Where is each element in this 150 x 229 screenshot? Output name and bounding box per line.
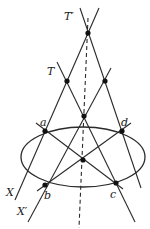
- label-T: T: [47, 65, 56, 78]
- label-b: b: [44, 189, 51, 202]
- point-T: [64, 78, 69, 83]
- label-X: X: [5, 186, 15, 199]
- label-c: c: [110, 188, 116, 201]
- label-T-prime: T′: [64, 10, 74, 23]
- point-center: [80, 157, 85, 162]
- point-c: [113, 180, 118, 185]
- point-R: [102, 78, 107, 83]
- line-T-c: [57, 62, 135, 222]
- label-X-prime: X′: [16, 205, 28, 218]
- conic-ellipse: [21, 127, 145, 187]
- point-T-prime: [85, 30, 90, 35]
- label-d: d: [121, 116, 128, 129]
- line-X-prime: [28, 68, 111, 222]
- point-a: [42, 128, 47, 133]
- point-M: [81, 113, 86, 118]
- point-b: [42, 182, 47, 187]
- label-a: a: [40, 116, 47, 129]
- line-X: [15, 8, 99, 200]
- diagonal-a-c: [36, 123, 123, 189]
- point-d: [119, 128, 124, 133]
- projective-conic-diagram: T′ T a d b c X X′: [0, 0, 150, 229]
